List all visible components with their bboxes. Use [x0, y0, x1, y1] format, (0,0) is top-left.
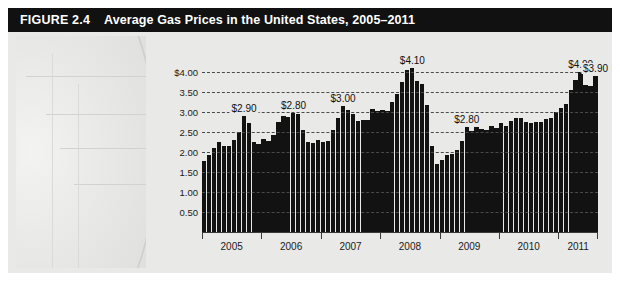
bar [593, 76, 597, 232]
x-axis-year-label: 2011 [567, 241, 589, 252]
gridline [202, 72, 598, 73]
value-annotation: $2.80 [279, 100, 308, 111]
y-axis-tick-label: 2.00 [180, 147, 199, 158]
x-axis-year-label: 2009 [458, 241, 480, 252]
gridline [202, 192, 598, 193]
y-axis-tick-label: 1.50 [180, 167, 199, 178]
bar [222, 146, 226, 232]
gridline [202, 112, 598, 113]
figure-number-label: FIGURE 2.4 [20, 13, 90, 27]
bar [271, 135, 275, 232]
gridline [202, 172, 598, 173]
bar [365, 120, 369, 232]
value-annotation: $2.80 [452, 114, 481, 125]
bar [573, 80, 577, 232]
bar [588, 86, 592, 232]
bar [455, 150, 459, 232]
photo-detail-line [26, 76, 146, 77]
bar [217, 142, 221, 232]
bar [326, 141, 330, 232]
bar [529, 123, 533, 232]
y-axis: $4.003.503.002.502.001.501.000.50 [154, 62, 198, 232]
bar [583, 85, 587, 232]
bar [549, 118, 553, 232]
bar [489, 126, 493, 232]
bar [450, 154, 454, 232]
bar [499, 123, 503, 232]
x-axis-year-label: 2005 [221, 241, 243, 252]
bar [212, 148, 216, 232]
bar [341, 106, 345, 232]
x-axis-end-cap [597, 232, 598, 239]
gas-price-bar-chart: $4.003.503.002.502.001.501.000.50 200520… [154, 38, 606, 270]
bar [232, 140, 236, 232]
bar [509, 121, 513, 232]
figure-title-text: Average Gas Prices in the United States,… [104, 13, 415, 27]
x-axis-year-label: 2010 [518, 241, 540, 252]
bar [331, 130, 335, 232]
x-axis-end-cap [202, 232, 203, 239]
bar [405, 70, 409, 232]
bar [474, 127, 478, 232]
x-axis-tick [440, 232, 441, 239]
bar [227, 146, 231, 232]
x-axis-year-label: 2006 [280, 241, 302, 252]
bar [559, 108, 563, 232]
gridline [202, 132, 598, 133]
bar [336, 118, 340, 232]
bar [281, 116, 285, 232]
x-axis-tick [558, 232, 559, 239]
figure-body-panel: $4.003.503.002.502.001.501.000.50 200520… [8, 32, 612, 273]
bar [207, 155, 211, 232]
bar [484, 130, 488, 232]
bar [361, 120, 365, 232]
y-axis-tick-label: $4.00 [174, 67, 198, 78]
x-axis-tick [380, 232, 381, 239]
value-annotation: $3.00 [329, 93, 358, 104]
bar [415, 81, 419, 232]
gridline [202, 152, 598, 153]
photo-arc-line [16, 36, 146, 268]
bar [346, 110, 350, 232]
bar [400, 82, 404, 232]
bar [276, 122, 280, 232]
bar [301, 130, 305, 232]
bar [286, 117, 290, 232]
bar [534, 122, 538, 232]
bar [237, 132, 241, 232]
bar [465, 127, 469, 232]
bar [569, 90, 573, 232]
figure-title-bar: FIGURE 2.4 Average Gas Prices in the Uni… [8, 8, 612, 32]
value-annotation: $2.90 [230, 103, 259, 114]
bar-series [202, 62, 598, 232]
bar [544, 119, 548, 232]
y-axis-tick-label: 1.00 [180, 187, 199, 198]
bar [435, 164, 439, 232]
gridline [202, 212, 598, 213]
bar [266, 141, 270, 232]
y-axis-tick-label: 3.00 [180, 107, 199, 118]
bar [469, 131, 473, 232]
photo-detail-line [60, 148, 146, 149]
bar [504, 126, 508, 232]
bar [420, 84, 424, 232]
bar [494, 128, 498, 232]
bar [445, 155, 449, 232]
photo-detail-line [46, 114, 146, 115]
bar [316, 140, 320, 232]
photo-arc-line [16, 36, 146, 268]
y-axis-tick-label: 0.50 [180, 207, 199, 218]
x-axis-year-label: 2007 [339, 241, 361, 252]
bar [242, 116, 246, 232]
value-annotation: $3.90 [581, 63, 610, 74]
bar [430, 146, 434, 232]
bar [524, 122, 528, 232]
bar [539, 122, 543, 232]
y-axis-tick-label: 3.50 [180, 87, 199, 98]
gridline [202, 92, 598, 93]
y-axis-tick-label: 2.50 [180, 127, 199, 138]
bar [261, 139, 265, 232]
bar [311, 143, 315, 232]
photo-arc-line [16, 36, 146, 268]
figure-container: FIGURE 2.4 Average Gas Prices in the Uni… [0, 0, 620, 281]
